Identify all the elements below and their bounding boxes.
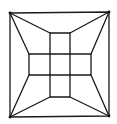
outer-square-outline — [10, 12, 109, 117]
connector-line-top-right — [91, 12, 109, 54]
inner-cross — [29, 33, 91, 97]
connector-line-top-right — [70, 12, 109, 33]
cross-horizontal-bar — [29, 54, 91, 75]
connector-line-bottom-left — [10, 97, 50, 117]
connector-line-bottom-right — [91, 75, 109, 116]
cross-in-square-diagram — [0, 0, 117, 124]
connector-line-bottom-left — [10, 75, 29, 117]
connector-line-top-left — [10, 13, 29, 54]
outer-square — [10, 12, 109, 117]
corner-dot-top-right — [108, 11, 111, 14]
corner-dot-bottom-left — [9, 116, 12, 119]
corner-dot-top-left — [9, 12, 12, 15]
corner-dot-bottom-right — [108, 115, 111, 118]
connector-line-top-left — [10, 13, 50, 33]
corner-connectors — [10, 12, 109, 117]
connector-line-bottom-right — [70, 97, 109, 116]
cross-vertical-bar — [50, 33, 70, 97]
corner-points — [9, 11, 111, 119]
